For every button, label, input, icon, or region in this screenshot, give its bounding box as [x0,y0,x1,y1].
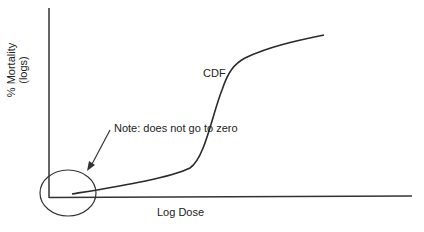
note-text: Note: does not go to zero [114,123,238,134]
cdf-curve [72,35,324,194]
y-axis-label-line1: % Mortality [5,25,17,115]
note-arrow [91,130,110,166]
x-axis-label: Log Dose [157,207,204,218]
arrow-head-icon [87,161,95,171]
x-axis [49,196,412,198]
cdf-label: CDF [203,68,226,79]
diagram-canvas [0,0,424,232]
y-axis-label: % Mortality (logs) [5,25,29,115]
y-axis-label-line2: (logs) [17,25,29,115]
